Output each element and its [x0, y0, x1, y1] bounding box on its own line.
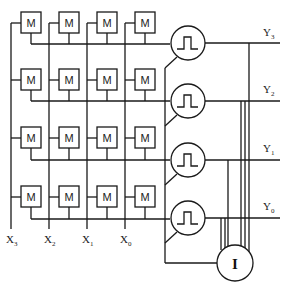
memory-cell: M: [87, 127, 117, 160]
memory-cells: M M M M M M M M M M M M M M M M: [11, 12, 155, 219]
memory-cell: M: [11, 12, 41, 44]
label-y3: Y3: [263, 26, 275, 41]
svg-text:M: M: [102, 191, 111, 203]
svg-text:M: M: [140, 17, 149, 29]
memory-cell: M: [49, 127, 79, 160]
memory-cell: M: [125, 69, 155, 101]
memory-cell: M: [125, 127, 155, 160]
output-labels: Y3 Y2 Y1 Y0: [263, 26, 275, 215]
memory-cell: M: [125, 12, 155, 44]
svg-text:M: M: [64, 17, 73, 29]
memory-cell: M: [49, 186, 79, 219]
memory-cell: M: [87, 12, 117, 44]
pulse-icon: [171, 26, 205, 60]
svg-text:M: M: [140, 132, 149, 144]
svg-text:M: M: [26, 74, 35, 86]
svg-text:M: M: [26, 17, 35, 29]
label-x1: X1: [82, 233, 94, 248]
pulse-icon: [171, 143, 205, 177]
svg-text:M: M: [102, 17, 111, 29]
svg-text:M: M: [102, 132, 111, 144]
label-x2: X2: [44, 233, 56, 248]
label-y0: Y0: [263, 200, 275, 215]
svg-text:M: M: [140, 74, 149, 86]
memory-cell: M: [11, 186, 41, 219]
svg-text:M: M: [140, 191, 149, 203]
memory-cell: M: [11, 127, 41, 160]
svg-text:M: M: [102, 74, 111, 86]
memory-cell: M: [125, 186, 155, 219]
label-x0: X0: [120, 233, 132, 248]
label-y2: Y2: [263, 83, 275, 98]
svg-text:M: M: [64, 191, 73, 203]
svg-text:M: M: [26, 132, 35, 144]
label-y1: Y1: [263, 142, 275, 157]
memory-cell: M: [49, 69, 79, 101]
memory-cell: M: [87, 186, 117, 219]
memory-array-diagram: M M M M M M M M M M M M M M M M: [0, 0, 288, 288]
pulse-icon: [171, 201, 205, 235]
svg-text:M: M: [64, 132, 73, 144]
memory-cell: M: [87, 69, 117, 101]
input-labels: X3 X2 X1 X0: [6, 233, 132, 248]
memory-cell: M: [11, 69, 41, 101]
memory-cell: M: [49, 12, 79, 44]
integrator: I: [217, 245, 253, 281]
svg-text:I: I: [232, 256, 238, 272]
svg-text:M: M: [26, 191, 35, 203]
label-x3: X3: [6, 233, 18, 248]
svg-text:M: M: [64, 74, 73, 86]
pulse-icon: [171, 84, 205, 118]
